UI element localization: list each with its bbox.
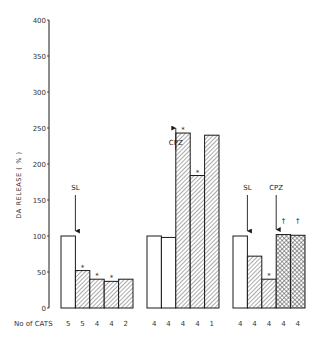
bar bbox=[75, 271, 89, 308]
cats-count: 4 bbox=[281, 320, 286, 328]
y-tick-label: 50 bbox=[37, 269, 46, 277]
cats-count: 1 bbox=[210, 320, 214, 328]
cats-count: 4 bbox=[238, 320, 243, 328]
bar bbox=[161, 237, 175, 308]
bar bbox=[205, 135, 219, 308]
significance-asterisk: * bbox=[181, 126, 185, 134]
bar bbox=[291, 235, 305, 308]
y-axis-label: DA RELEASE ( % ) bbox=[15, 151, 23, 218]
y-tick-label: 200 bbox=[33, 161, 46, 169]
y-tick-label: 400 bbox=[33, 17, 46, 25]
annotation-sl: SL bbox=[243, 184, 251, 192]
y-tick-label: 250 bbox=[33, 125, 46, 133]
cats-count: 4 bbox=[109, 320, 114, 328]
cats-count: 4 bbox=[166, 320, 171, 328]
bar bbox=[90, 279, 104, 308]
annotation-cpz: CPZ bbox=[269, 184, 283, 192]
significance-asterisk: * bbox=[267, 272, 271, 280]
cats-count: 4 bbox=[296, 320, 301, 328]
bar bbox=[190, 176, 204, 308]
y-tick-label: 350 bbox=[33, 53, 46, 61]
cats-count: 4 bbox=[152, 320, 157, 328]
cats-count: 4 bbox=[267, 320, 272, 328]
bar-group-2: ** bbox=[147, 126, 219, 308]
no-of-cats-row: No of CATS554424444144444 bbox=[14, 320, 301, 328]
bar bbox=[233, 236, 247, 308]
bar bbox=[147, 236, 161, 308]
bar bbox=[104, 281, 118, 308]
significance-asterisk: * bbox=[196, 169, 200, 177]
y-tick-label: 300 bbox=[33, 89, 46, 97]
bar bbox=[262, 279, 276, 308]
y-tick-label: 150 bbox=[33, 197, 46, 205]
dagger-mark: † bbox=[282, 217, 286, 225]
bar bbox=[176, 133, 190, 308]
cats-count: 4 bbox=[95, 320, 100, 328]
significance-asterisk: * bbox=[110, 274, 114, 282]
significance-asterisk: * bbox=[81, 264, 85, 272]
bar-chart: 050100150200250300350400 DA RELEASE ( % … bbox=[0, 0, 321, 338]
bar-group-3: *†† bbox=[233, 217, 305, 308]
y-tick-label: 0 bbox=[42, 305, 46, 313]
cats-count: 4 bbox=[181, 320, 186, 328]
dagger-mark: † bbox=[296, 217, 300, 225]
cats-count: 4 bbox=[195, 320, 200, 328]
annotation-sl: SL bbox=[71, 184, 79, 192]
bar-group-1: *** bbox=[61, 236, 133, 308]
bar bbox=[276, 235, 290, 308]
cats-count: 4 bbox=[252, 320, 257, 328]
cats-count: 2 bbox=[124, 320, 128, 328]
significance-asterisk: * bbox=[95, 272, 99, 280]
cats-count: 5 bbox=[66, 320, 70, 328]
y-tick-label: 100 bbox=[33, 233, 46, 241]
row-label: No of CATS bbox=[14, 320, 53, 328]
bar bbox=[119, 279, 133, 308]
cats-count: 5 bbox=[80, 320, 84, 328]
bar bbox=[61, 236, 75, 308]
y-axis: 050100150200250300350400 bbox=[33, 17, 49, 313]
bar bbox=[247, 256, 261, 308]
bar-groups: ******†† bbox=[61, 126, 305, 308]
y-axis-title: DA RELEASE ( % ) bbox=[15, 151, 23, 218]
